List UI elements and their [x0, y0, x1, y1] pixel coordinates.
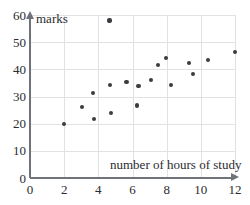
gridline-vertical [201, 15, 202, 178]
y-axis-title: marks [36, 12, 68, 25]
data-point [169, 83, 173, 87]
y-tick-label: 20 [13, 117, 26, 130]
data-point [62, 122, 66, 126]
y-axis-arrow-icon [26, 11, 34, 19]
x-axis-arrow-icon [231, 173, 239, 181]
x-tick-label: 2 [61, 183, 68, 196]
data-point [135, 103, 139, 107]
y-tick-label: 10 [13, 144, 26, 157]
gridline-vertical [133, 15, 134, 178]
x-tick-label: 10 [194, 183, 207, 196]
data-point [108, 83, 112, 87]
data-point [136, 84, 140, 88]
data-point [91, 91, 95, 95]
x-tick-label: 4 [95, 183, 102, 196]
data-point [233, 50, 237, 54]
data-point [124, 80, 128, 84]
scatter-chart: 60 50 40 30 20 10 0 0 2 4 6 8 10 12 mark… [0, 0, 250, 205]
data-point [109, 111, 113, 115]
y-tick-label: 30 [13, 90, 26, 103]
x-tick-label: 0 [27, 183, 34, 196]
x-axis-line [30, 177, 233, 179]
y-tick-label: 40 [13, 63, 26, 76]
gridline-vertical [167, 15, 168, 178]
x-tick-label: 6 [129, 183, 136, 196]
data-point [187, 61, 191, 65]
data-point [164, 56, 168, 60]
data-point [80, 105, 84, 109]
gridline-vertical [64, 15, 65, 178]
data-point [107, 18, 111, 22]
y-tick-label: 50 [13, 36, 26, 49]
plot-area [30, 15, 235, 178]
y-tick-label: 60 [13, 9, 26, 22]
gridline-vertical [235, 15, 236, 178]
data-point [191, 72, 195, 76]
data-point [206, 58, 210, 62]
y-tick-labels: 60 50 40 30 20 10 0 [0, 0, 26, 205]
y-axis-line [29, 18, 31, 178]
data-point [149, 78, 153, 82]
x-tick-label: 12 [229, 183, 242, 196]
data-point [92, 117, 96, 121]
y-tick-label: 0 [20, 172, 27, 185]
gridline-vertical [98, 15, 99, 178]
x-axis-title: number of hours of study [110, 158, 241, 171]
x-tick-label: 8 [163, 183, 170, 196]
data-point [156, 63, 160, 67]
